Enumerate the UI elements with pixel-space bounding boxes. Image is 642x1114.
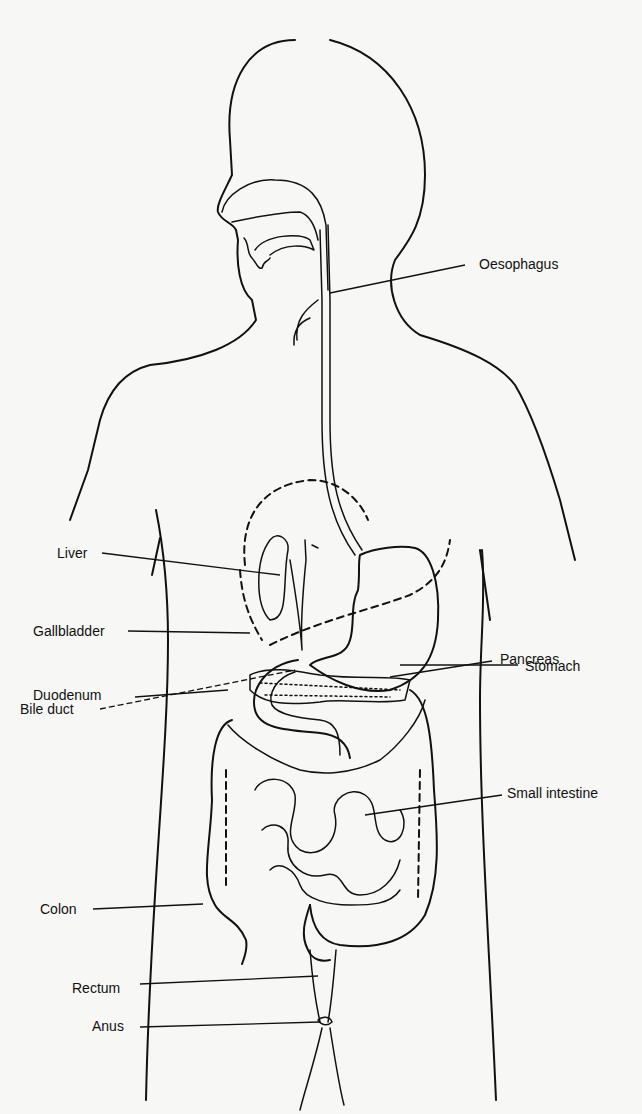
leader-duodenum bbox=[135, 690, 228, 697]
label-gallbladder: Gallbladder bbox=[33, 623, 105, 639]
colon-transverse bbox=[228, 700, 425, 773]
label-liver: Liver bbox=[57, 545, 87, 561]
leg-divide bbox=[300, 1028, 344, 1110]
leader-rectum bbox=[140, 976, 318, 984]
leader-colon bbox=[93, 904, 203, 909]
tongue bbox=[255, 236, 314, 255]
stomach-outline bbox=[310, 547, 438, 691]
colon-right-outline bbox=[310, 690, 437, 946]
sigmoid-colon bbox=[304, 905, 330, 961]
leader-anus bbox=[140, 1022, 320, 1027]
head-back-outline bbox=[330, 40, 575, 560]
leader-oesophagus bbox=[330, 265, 465, 293]
torso-left-side bbox=[146, 510, 168, 1100]
label-pancreas: Pancreas bbox=[500, 651, 559, 667]
ribcage-right bbox=[480, 550, 490, 620]
leader-liver bbox=[102, 553, 280, 575]
leader-pancreas bbox=[390, 661, 492, 677]
label-rectum: Rectum bbox=[72, 980, 120, 996]
label-colon: Colon bbox=[40, 901, 77, 917]
palate bbox=[232, 212, 318, 240]
label-small-intestine: Small intestine bbox=[507, 785, 598, 801]
digestive-system-diagram: Oesophagus Liver Gallbladder Stomach Bil… bbox=[0, 0, 642, 1114]
colon-haustra-right bbox=[418, 770, 420, 900]
oesophagus-tube-left bbox=[320, 230, 355, 555]
body-outline-drawing bbox=[0, 0, 642, 1114]
label-oesophagus: Oesophagus bbox=[479, 256, 558, 272]
label-anus: Anus bbox=[92, 1018, 124, 1034]
label-bile-duct: Bile duct bbox=[20, 701, 74, 717]
teeth bbox=[244, 238, 270, 268]
label-duodenum: Duodenum bbox=[33, 687, 102, 703]
small-intestine-loops bbox=[255, 779, 404, 905]
leader-gallbladder bbox=[128, 631, 250, 633]
gallbladder-shape bbox=[259, 536, 288, 620]
torso-right-side bbox=[480, 550, 496, 1100]
liver-outline bbox=[240, 480, 368, 640]
trachea bbox=[294, 300, 318, 345]
head-outline bbox=[70, 40, 295, 520]
ribcage-left bbox=[152, 538, 160, 575]
